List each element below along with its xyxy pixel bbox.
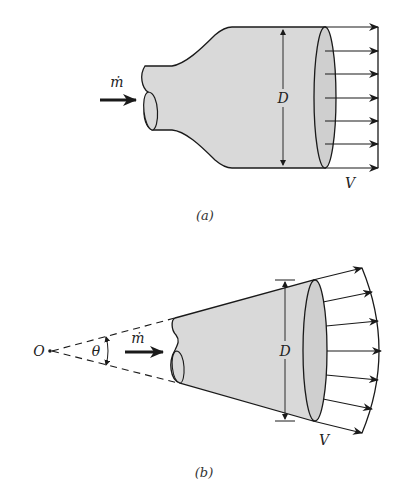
cone-extension-bottom (52, 351, 178, 383)
label-diameter-b: D (278, 343, 290, 359)
apex-point (48, 349, 52, 353)
cone-exit-section (303, 280, 327, 421)
label-angle: θ (92, 343, 101, 359)
label-diameter: D (276, 90, 288, 106)
angle-arc (106, 337, 108, 365)
label-velocity-b: V (319, 432, 331, 448)
label-origin: O (33, 343, 45, 359)
caption-b: (b) (195, 465, 213, 480)
cone-extension-top (52, 318, 175, 351)
figure-a: D V ṁ (a) (100, 27, 378, 223)
figure-b: O θ D V ṁ (b) (33, 268, 381, 480)
caption-a: (a) (196, 208, 214, 223)
figure-canvas: D V ṁ (a) O θ (0, 0, 413, 504)
nozzle-body (142, 27, 325, 168)
label-mass-flow: ṁ (110, 74, 123, 90)
label-mass-flow-b: ṁ (131, 330, 144, 346)
label-velocity: V (345, 175, 357, 191)
